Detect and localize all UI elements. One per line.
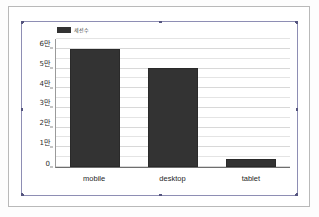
y-axis-tick-mark [50, 47, 53, 48]
x-axis-label: desktop [133, 172, 211, 186]
y-axis: 6만5만4만3만2만1만0 [23, 39, 53, 168]
bar-chart[interactable]: 세션수 6만5만4만3만2만1만0 mobiledesktoptablet [23, 23, 296, 194]
x-axis: mobiledesktoptablet [55, 172, 290, 186]
legend-swatch-icon [57, 27, 71, 33]
screenshot-root: 세션수 6만5만4만3만2만1만0 mobiledesktoptablet [0, 0, 319, 217]
y-axis-tick-label: 6만 [40, 38, 50, 48]
y-axis-tick-mark [50, 127, 53, 128]
y-axis-tick-mark [50, 167, 53, 168]
x-axis-label: mobile [55, 172, 133, 186]
bar-slot [56, 39, 134, 167]
y-axis-tick-mark [50, 87, 53, 88]
bar-series [56, 39, 290, 167]
y-axis-tick-mark [50, 67, 53, 68]
chart-legend: 세션수 [57, 27, 89, 33]
bar-desktop[interactable] [148, 68, 197, 167]
bar-tablet[interactable] [226, 159, 275, 167]
legend-label: 세션수 [74, 27, 89, 33]
y-axis-tick-label: 2만 [40, 117, 50, 127]
bar-slot [134, 39, 212, 167]
y-axis-tick-label: 1만 [40, 137, 50, 147]
bar-slot [212, 39, 290, 167]
y-axis-tick-mark [50, 107, 53, 108]
plot-area [55, 39, 290, 168]
bar-mobile[interactable] [70, 49, 119, 167]
y-axis-tick-label: 5만 [40, 58, 50, 68]
y-axis-tick-label: 4만 [40, 78, 50, 88]
y-axis-tick-label: 3만 [40, 97, 50, 107]
y-axis-tick-mark [50, 147, 53, 148]
x-axis-label: tablet [212, 172, 290, 186]
